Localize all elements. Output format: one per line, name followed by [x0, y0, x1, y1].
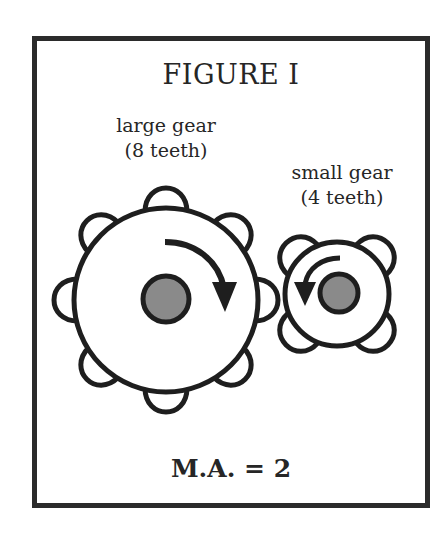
- large-gear-hub: [143, 276, 189, 322]
- small-gear: [271, 228, 403, 360]
- small-gear-hub: [320, 274, 358, 312]
- large-gear: [54, 188, 278, 412]
- mechanical-advantage-label: M.A. = 2: [32, 454, 430, 483]
